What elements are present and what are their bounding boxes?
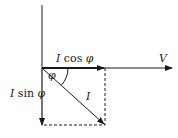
angle-arc xyxy=(61,68,68,85)
reactive-component-label: I sin φ xyxy=(9,87,46,100)
active-component-label: I cos φ xyxy=(55,52,94,65)
angle-label: φ xyxy=(48,69,56,82)
phasor-diagram-canvas: I cos φ V φ I I sin φ xyxy=(0,0,178,138)
phasor-diagram: I cos φ V φ I I sin φ xyxy=(0,0,178,138)
current-label: I xyxy=(85,90,91,103)
voltage-label: V xyxy=(159,52,168,65)
